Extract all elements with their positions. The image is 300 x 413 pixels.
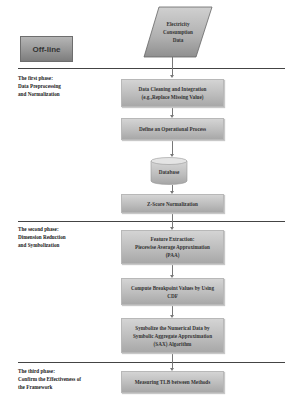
step-operational-process: Define an Operational Process bbox=[121, 118, 224, 140]
phase-1-line-2: Data Preprocessing bbox=[18, 82, 61, 90]
phase-1-line-3: and Normalization bbox=[18, 90, 61, 98]
connector-operational-database bbox=[172, 139, 173, 155]
step-symbolize-sax: Symbolize the Numerical Data by Symbolic… bbox=[121, 318, 224, 353]
phase-2-label: The second phase: Dimension Reduction an… bbox=[18, 225, 66, 249]
input-line-2: Consumption bbox=[163, 28, 193, 36]
step-feature-extraction-paa: Feature Extraction: Piecewise Average Ap… bbox=[121, 230, 224, 264]
phase-divider-2 bbox=[18, 221, 285, 222]
phase-1-title: The first phase: bbox=[18, 74, 61, 82]
phase-3-label: The third phase: Confirm the Effectivene… bbox=[18, 367, 81, 391]
input-data-label: Electricity Consumption Data bbox=[153, 6, 203, 58]
step-paa-line-2: Piecewise Average Approximation bbox=[135, 243, 210, 251]
step-sax-line-3: (SAX) Algorithm bbox=[133, 340, 212, 348]
step-sax-line-1: Symbolize the Numerical Data by bbox=[133, 324, 212, 332]
connector-sax-tlb bbox=[172, 353, 173, 369]
input-data-node: Electricity Consumption Data bbox=[143, 6, 213, 58]
input-line-1: Electricity bbox=[163, 20, 193, 28]
step-operational-process-label: Define an Operational Process bbox=[139, 125, 206, 133]
step-data-cleaning: Data Cleaning and Integration (e.g.,Repl… bbox=[121, 79, 224, 107]
step-data-cleaning-line-2: (e.g.,Replace Missing Value) bbox=[139, 93, 207, 101]
arrow-down-icon bbox=[170, 75, 174, 78]
phase-1-label: The first phase: Data Preprocessing and … bbox=[18, 74, 61, 98]
step-paa-line-1: Feature Extraction: bbox=[135, 235, 210, 243]
input-line-3: Data bbox=[163, 36, 193, 44]
phase-2-title: The second phase: bbox=[18, 225, 66, 233]
step-data-cleaning-line-1: Data Cleaning and Integration bbox=[139, 85, 207, 93]
step-sax-line-2: Symbolic Aggregate Approximation bbox=[133, 332, 212, 340]
database-label: Database bbox=[150, 161, 188, 183]
phase-2-line-2: Dimension Reduction bbox=[18, 233, 66, 241]
step-measuring-tlb: Measuring TLB between Methods bbox=[121, 371, 224, 393]
step-breakpoint-line-2: CDF bbox=[131, 292, 214, 300]
step-zscore-label: Z-Score Normalization bbox=[147, 200, 198, 208]
database-node: Database bbox=[150, 157, 188, 185]
connector-input-cleaning bbox=[172, 57, 173, 76]
phase-3-title: The third phase: bbox=[18, 367, 81, 375]
phase-2-line-3: and Symbolization bbox=[18, 241, 66, 249]
step-breakpoint-line-1: Compute Breakpoint Values by Using bbox=[131, 284, 214, 292]
step-zscore-normalization: Z-Score Normalization bbox=[121, 194, 224, 213]
phase-3-line-3: the Framework bbox=[18, 383, 81, 391]
connector-zscore-paa bbox=[172, 213, 173, 228]
offline-label: Off-line bbox=[20, 36, 73, 62]
offline-text: Off-line bbox=[33, 45, 61, 54]
phase-3-line-2: Confirm the Effectiveness of bbox=[18, 375, 81, 383]
step-tlb-label: Measuring TLB between Methods bbox=[135, 378, 211, 386]
step-compute-breakpoints: Compute Breakpoint Values by Using CDF bbox=[121, 278, 224, 305]
phase-divider-1 bbox=[18, 68, 285, 69]
step-paa-line-3: (PAA) bbox=[135, 251, 210, 259]
phase-divider-3 bbox=[18, 362, 285, 363]
